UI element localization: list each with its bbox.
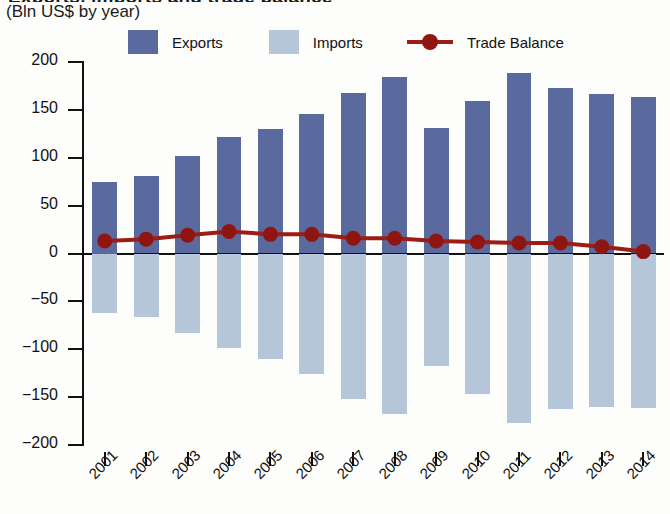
trade-balance-marker[interactable] [304,227,319,242]
trade-balance-marker[interactable] [636,244,651,259]
trade-balance-line-layer [60,52,664,452]
trade-balance-marker[interactable] [222,224,237,239]
trade-balance-marker[interactable] [387,231,402,246]
x-tick-label: 2011 [499,447,534,482]
x-tick-label: 2004 [209,446,245,482]
x-tick-label: 2012 [540,446,576,482]
legend-item-imports[interactable]: Imports [269,30,363,54]
trade-balance-marker[interactable] [594,239,609,254]
y-tick-label: 200 [2,51,58,69]
y-tick-label: 100 [2,147,58,165]
x-tick-label: 2009 [416,446,452,482]
y-tick-label: −50 [2,290,58,308]
x-tick-label: 2002 [126,446,162,482]
x-axis: 2001200220032004200520062007200820092010… [60,452,664,514]
trade-balance-marker[interactable] [553,235,568,250]
y-tick-label: −100 [2,338,58,356]
x-tick-label: 2003 [168,446,204,482]
y-tick-label: 150 [2,99,58,117]
x-tick-label: 2014 [623,446,659,482]
imports-swatch-icon [269,30,299,54]
x-tick-label: 2013 [582,446,618,482]
legend-item-exports[interactable]: Exports [128,30,223,54]
y-tick-label: 0 [2,243,58,261]
x-tick-label: 2007 [333,446,369,482]
chart-subtitle: (Bln US$ by year) [6,2,140,22]
trade-balance-marker[interactable] [139,232,154,247]
legend-marker-dot [422,34,438,50]
plot-area: 200150100500−50−100−150−200 [60,52,664,452]
x-tick-label: 2008 [375,446,411,482]
y-tick-label: −200 [2,434,58,452]
trade-balance-marker[interactable] [263,227,278,242]
x-tick-label: 2006 [292,446,328,482]
exports-swatch-icon [128,30,158,54]
trade-balance-line-icon [407,31,453,53]
trade-balance-marker[interactable] [180,228,195,243]
x-tick-label: 2001 [85,446,121,482]
y-tick-label: 50 [2,195,58,213]
trade-balance-marker[interactable] [512,235,527,250]
legend-label-trade-balance: Trade Balance [467,34,564,51]
legend-label-imports: Imports [313,34,363,51]
trade-balance-marker[interactable] [97,234,112,249]
x-tick-label: 2005 [250,446,286,482]
trade-balance-marker[interactable] [346,231,361,246]
y-tick-label: −150 [2,386,58,404]
x-tick-label: 2010 [458,446,494,482]
trade-balance-marker[interactable] [470,235,485,250]
legend-item-trade-balance[interactable]: Trade Balance [407,31,564,53]
legend-label-exports: Exports [172,34,223,51]
trade-balance-marker[interactable] [429,234,444,249]
chart-legend: Exports Imports Trade Balance [128,30,564,54]
